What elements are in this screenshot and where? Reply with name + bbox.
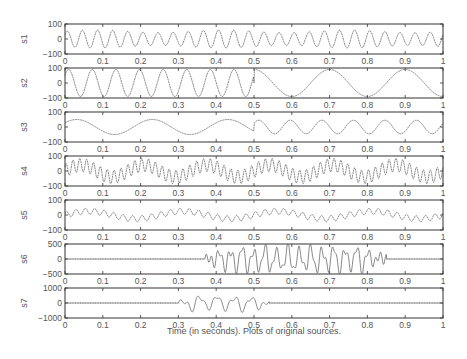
x-tick-label: 0.9 xyxy=(399,144,411,154)
y-tick-label: 100 xyxy=(48,195,62,205)
panel-s5: 00.10.20.30.40.50.60.70.80.911000−100s5 xyxy=(19,195,446,242)
panel-s2: 00.10.20.30.40.50.60.70.80.911000−100s2 xyxy=(19,63,446,110)
x-tick-label: 0.8 xyxy=(361,56,373,66)
y-tick-label: 100 xyxy=(48,151,62,161)
x-tick-label: 0.8 xyxy=(361,276,373,286)
axes-box-s4 xyxy=(65,156,443,186)
panel-s1: 00.10.20.30.40.50.60.70.80.911000−100s1 xyxy=(19,19,446,66)
panel-s6: 00.10.20.30.40.50.60.70.80.915000−500s6 xyxy=(19,239,446,286)
x-tick-label: 0.2 xyxy=(135,276,147,286)
y-axis-label-s1: s1 xyxy=(19,34,29,44)
x-tick-label: 0.2 xyxy=(135,232,147,242)
x-tick-label: 0.4 xyxy=(210,276,222,286)
x-tick-label: 0.1 xyxy=(97,320,109,330)
x-tick-label: 0.3 xyxy=(172,144,184,154)
y-tick-label: 500 xyxy=(48,239,62,249)
y-tick-label: −100 xyxy=(43,181,62,191)
signal-s4 xyxy=(65,158,443,183)
x-tick-label: 0.4 xyxy=(210,100,222,110)
x-tick-label: 0 xyxy=(63,56,68,66)
x-tick-label: 0.9 xyxy=(399,100,411,110)
x-tick-label: 0.5 xyxy=(248,56,260,66)
x-tick-label: 0 xyxy=(63,100,68,110)
y-tick-label: 0 xyxy=(57,166,62,176)
y-axis-label-s6: s6 xyxy=(19,254,29,264)
x-tick-label: 0 xyxy=(63,232,68,242)
x-tick-label: 0.3 xyxy=(172,56,184,66)
y-tick-label: 100 xyxy=(48,19,62,29)
x-tick-label: 0.6 xyxy=(286,276,298,286)
x-tick-label: 0.9 xyxy=(399,232,411,242)
panel-s7: 00.10.20.30.40.50.60.70.80.9110000−1000s… xyxy=(19,283,446,330)
x-tick-label: 0.1 xyxy=(97,276,109,286)
signal-s2 xyxy=(65,70,443,97)
x-tick-label: 0.2 xyxy=(135,188,147,198)
y-axis-label-s7: s7 xyxy=(19,298,29,308)
x-tick-label: 0.5 xyxy=(248,144,260,154)
y-tick-label: −1000 xyxy=(38,313,62,323)
panel-s4: 00.10.20.30.40.50.60.70.80.911000−100s4 xyxy=(19,151,446,198)
y-tick-label: −100 xyxy=(43,137,62,147)
x-tick-label: 0.5 xyxy=(248,100,260,110)
x-tick-label: 0.8 xyxy=(361,144,373,154)
y-tick-label: 100 xyxy=(48,63,62,73)
x-tick-label: 0.5 xyxy=(248,276,260,286)
x-tick-label: 0.6 xyxy=(286,144,298,154)
x-tick-label: 0.9 xyxy=(399,320,411,330)
y-tick-label: −100 xyxy=(43,49,62,59)
x-tick-label: 0.1 xyxy=(97,100,109,110)
x-tick-label: 0.7 xyxy=(324,144,336,154)
y-tick-label: 0 xyxy=(57,298,62,308)
y-tick-label: 0 xyxy=(57,78,62,88)
x-tick-label: 0.4 xyxy=(210,232,222,242)
x-tick-label: 1 xyxy=(441,144,446,154)
x-tick-label: 0.8 xyxy=(361,232,373,242)
x-tick-label: 0.1 xyxy=(97,188,109,198)
x-tick-label: 0.7 xyxy=(324,232,336,242)
y-axis-label-s4: s4 xyxy=(19,166,29,176)
signal-s3 xyxy=(65,120,443,135)
x-tick-label: 0.3 xyxy=(172,100,184,110)
y-tick-label: 1000 xyxy=(43,283,62,293)
y-tick-label: 0 xyxy=(57,34,62,44)
x-tick-label: 0.7 xyxy=(324,56,336,66)
x-tick-label: 0.5 xyxy=(248,232,260,242)
y-axis-label-s3: s3 xyxy=(19,122,29,132)
x-tick-label: 0 xyxy=(63,276,68,286)
y-tick-label: 0 xyxy=(57,210,62,220)
x-tick-label: 0.8 xyxy=(361,320,373,330)
x-tick-label: 0.3 xyxy=(172,232,184,242)
x-tick-label: 1 xyxy=(441,188,446,198)
x-tick-label: 0.4 xyxy=(210,144,222,154)
y-tick-label: −100 xyxy=(43,93,62,103)
x-tick-label: 0.8 xyxy=(361,188,373,198)
x-tick-label: 1 xyxy=(441,320,446,330)
panel-s3: 00.10.20.30.40.50.60.70.80.911000−100s3 xyxy=(19,107,446,154)
x-tick-label: 0.1 xyxy=(97,56,109,66)
x-tick-label: 0.2 xyxy=(135,144,147,154)
y-tick-label: 0 xyxy=(57,254,62,264)
x-tick-label: 1 xyxy=(441,232,446,242)
y-axis-label-s5: s5 xyxy=(19,210,29,220)
x-tick-label: 0 xyxy=(63,320,68,330)
x-tick-label: 0.8 xyxy=(361,100,373,110)
x-tick-label: 1 xyxy=(441,276,446,286)
axes-box-s1 xyxy=(65,24,443,54)
x-tick-label: 1 xyxy=(441,56,446,66)
x-tick-label: 0.3 xyxy=(172,276,184,286)
x-tick-label: 0.9 xyxy=(399,188,411,198)
x-tick-label: 0.9 xyxy=(399,276,411,286)
y-tick-label: 0 xyxy=(57,122,62,132)
x-axis-label: Time (in seconds). Plots of original sou… xyxy=(167,326,341,336)
x-tick-label: 0.6 xyxy=(286,232,298,242)
x-tick-label: 0.3 xyxy=(172,188,184,198)
x-tick-label: 0.4 xyxy=(210,188,222,198)
x-tick-label: 0.7 xyxy=(324,188,336,198)
x-tick-label: 0.1 xyxy=(97,232,109,242)
x-tick-label: 0.9 xyxy=(399,56,411,66)
y-tick-label: −100 xyxy=(43,225,62,235)
x-tick-label: 0.4 xyxy=(210,56,222,66)
x-tick-label: 0.2 xyxy=(135,56,147,66)
signal-s1 xyxy=(65,30,443,48)
x-tick-label: 0 xyxy=(63,144,68,154)
